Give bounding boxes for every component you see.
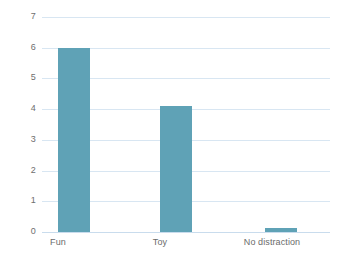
bar-toy — [160, 106, 192, 232]
y-tick-label: 7 — [6, 12, 36, 21]
x-tick-label-no-distraction: No distraction — [227, 237, 317, 247]
y-tick-label: 3 — [6, 135, 36, 144]
gridline-0-baseline — [42, 232, 330, 233]
y-tick-label: 2 — [6, 166, 36, 175]
x-tick-label-fun: Fun — [28, 237, 88, 247]
bar-chart: 7 6 5 4 3 2 1 0 Fun Toy No distraction — [0, 0, 343, 254]
y-tick-label: 1 — [6, 196, 36, 205]
bars-layer — [42, 17, 330, 232]
bar-fun — [58, 48, 90, 232]
y-axis: 7 6 5 4 3 2 1 0 — [0, 17, 36, 232]
x-tick-label-toy: Toy — [130, 237, 190, 247]
y-tick-label: 0 — [6, 227, 36, 236]
y-tick-label: 4 — [6, 104, 36, 113]
y-tick-label: 6 — [6, 43, 36, 52]
y-tick-label: 5 — [6, 73, 36, 82]
bar-no-distraction — [265, 228, 297, 232]
